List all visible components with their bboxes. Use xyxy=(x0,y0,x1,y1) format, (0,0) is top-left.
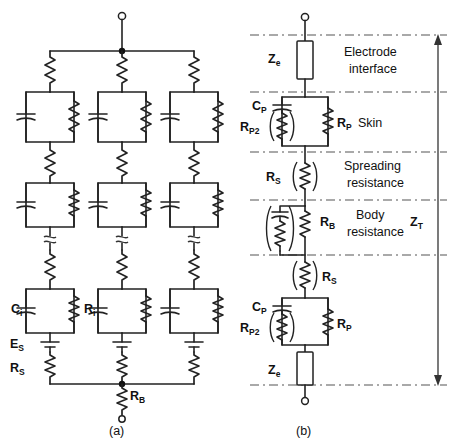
panel-a-branch-3 xyxy=(161,51,223,384)
label-rb-body: RB xyxy=(320,215,335,231)
rp2-bot-paren-right xyxy=(290,313,294,342)
circuit-diagram-svg: Ci Ri ES RS RB (a) xyxy=(0,0,457,447)
zt-arrow-head-bottom xyxy=(434,375,442,386)
label-ze-top: Ze xyxy=(268,52,281,68)
skin-block-top xyxy=(270,97,333,146)
rs-lower-paren-right xyxy=(313,261,317,290)
zone-label-electrode-line1: Electrode xyxy=(344,45,397,59)
label-rs-a: RS xyxy=(10,361,25,377)
branch3-rc-block-2 xyxy=(161,183,223,227)
zone-label-spreading-line1: Spreading xyxy=(344,159,401,173)
branch2-rc-block-1 xyxy=(89,92,151,142)
zt-arrow-head-top xyxy=(434,34,442,45)
panel-a: Ci Ri ES RS RB (a) xyxy=(10,12,223,438)
label-cp-bot: CP xyxy=(252,300,267,316)
panel-a-branch-1 xyxy=(17,51,79,384)
branch1-rc-block-1 xyxy=(17,92,79,142)
panel-a-rb-resistor xyxy=(117,384,127,415)
spreading-resistance-lower-block xyxy=(293,261,317,298)
branch2-rc-block-3 xyxy=(89,289,151,333)
rs-spread-paren-right xyxy=(313,162,317,191)
rs-lower-resistor xyxy=(300,262,310,288)
skin-block-bottom xyxy=(270,298,333,345)
ze-top-box xyxy=(297,41,313,79)
rs-spread-resistor xyxy=(300,163,310,189)
branch1-rs-resistor xyxy=(45,352,55,384)
caption-a: (a) xyxy=(109,424,124,438)
panel-b-top-terminal[interactable] xyxy=(301,13,308,20)
zone-label-body-line1: Body xyxy=(356,208,385,222)
label-rp2-top: RP2 xyxy=(240,120,260,136)
label-ri: Ri xyxy=(84,302,95,318)
branch1-rc-block-3 xyxy=(17,289,79,333)
label-ze-bot: Ze xyxy=(268,363,281,379)
panel-b: ZT Ze CP RP2 RP RS RB RS CP RP2 RP Ze El… xyxy=(240,13,447,438)
zone-label-body-line2: resistance xyxy=(347,225,404,239)
body-resistance-block xyxy=(267,206,311,262)
panel-b-bottom-terminal[interactable] xyxy=(302,398,309,405)
panel-a-bottom-terminal[interactable] xyxy=(119,416,125,422)
label-es: ES xyxy=(10,337,24,353)
rp2-top-paren-left xyxy=(270,112,274,141)
branch2-rc-block-2 xyxy=(89,183,151,227)
body-variable-resistor xyxy=(275,221,285,246)
figure-canvas: Ci Ri ES RS RB (a) xyxy=(0,0,457,447)
label-rs-spread: RS xyxy=(266,170,281,186)
branch3-rc-block-3 xyxy=(161,289,223,333)
panel-a-branch-2 xyxy=(89,51,151,384)
rs-spread-paren-left xyxy=(293,162,297,191)
branch1-series-resistor-2 xyxy=(45,142,55,183)
body-paren-left xyxy=(267,206,272,251)
zone-label-spreading-line2: resistance xyxy=(347,176,404,190)
branch3-rc-block-1 xyxy=(161,92,223,142)
panel-a-top-terminal[interactable] xyxy=(118,12,125,19)
label-ci: Ci xyxy=(11,302,22,318)
branch1-series-resistor-1 xyxy=(45,51,55,92)
zone-label-skin: Skin xyxy=(358,116,382,130)
label-rp-bot: RP xyxy=(337,317,352,333)
label-rb-a: RB xyxy=(130,389,145,405)
label-cp-top: CP xyxy=(252,99,267,115)
rs-lower-paren-left xyxy=(293,261,297,290)
zt-arrow xyxy=(434,34,442,386)
branch1-break-squiggle-a xyxy=(44,236,56,238)
caption-b: (b) xyxy=(296,424,311,438)
zone-label-electrode-line2: interface xyxy=(349,62,397,76)
branch1-rc-block-2 xyxy=(17,183,79,227)
ze-bot-box xyxy=(297,352,313,385)
body-paren-right xyxy=(289,206,294,251)
rp2-top-paren-right xyxy=(290,112,294,141)
label-rp-top: RP xyxy=(337,116,352,132)
label-rs-lower: RS xyxy=(322,270,337,286)
label-zt: ZT xyxy=(410,215,424,231)
label-rp2-bot: RP2 xyxy=(240,321,260,337)
rp2-bot-paren-left xyxy=(270,313,274,342)
rb-body-resistor xyxy=(300,211,310,237)
